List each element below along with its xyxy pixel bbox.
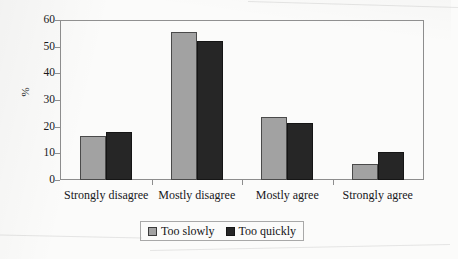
y-tick-mark-0	[55, 180, 60, 181]
y-axis-tick-labels: 0102030405060	[28, 0, 55, 259]
bar-3-0	[352, 164, 378, 180]
y-tick-mark-60	[55, 20, 60, 21]
chart-legend: Too slowlyToo quickly	[140, 221, 304, 241]
x-tick-label-2: Mostly agree	[242, 188, 333, 203]
x-tick-mark-2	[333, 180, 334, 185]
y-tick-mark-20	[55, 127, 60, 128]
bar-3-1	[378, 152, 404, 180]
legend-item-1: Too quickly	[226, 225, 297, 237]
y-tick-mark-50	[55, 47, 60, 48]
x-tick-mark-0	[152, 180, 153, 185]
legend-swatch-gray	[148, 227, 157, 236]
bar-0-0	[80, 136, 106, 180]
y-tick-label-10: 10	[29, 147, 55, 159]
y-tick-mark-30	[55, 100, 60, 101]
y-tick-label-30: 30	[29, 94, 55, 106]
legend-label-0: Too slowly	[161, 225, 215, 237]
x-tick-mark-1	[242, 180, 243, 185]
x-tick-label-1: Mostly disagree	[152, 188, 243, 203]
x-tick-label-3: Strongly agree	[333, 188, 424, 203]
bars-container	[61, 20, 423, 180]
y-tick-label-50: 50	[29, 41, 55, 53]
y-tick-label-40: 40	[29, 67, 55, 79]
bar-2-0	[261, 117, 287, 180]
bar-1-0	[171, 32, 197, 180]
y-tick-label-20: 20	[29, 121, 55, 133]
legend-item-0: Too slowly	[148, 225, 215, 237]
bar-0-1	[106, 132, 132, 180]
y-tick-mark-10	[55, 153, 60, 154]
bar-2-1	[287, 123, 313, 180]
y-tick-label-0: 0	[29, 174, 55, 186]
bar-1-1	[197, 41, 223, 180]
legend-label-1: Too quickly	[239, 225, 297, 237]
x-tick-label-0: Strongly disagree	[61, 188, 152, 203]
legend-swatch-black	[226, 227, 235, 236]
y-tick-mark-40	[55, 73, 60, 74]
y-tick-label-60: 60	[29, 14, 55, 26]
